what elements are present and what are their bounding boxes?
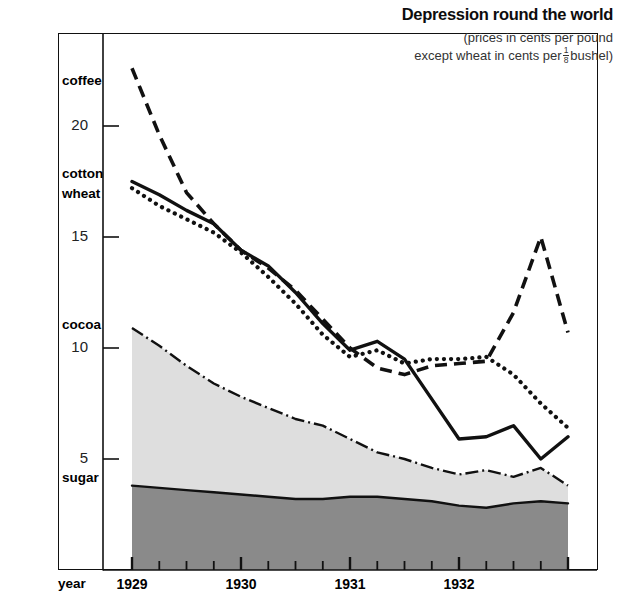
chart-page: Depression round the world (prices in ce… [0,0,623,611]
series-label-cocoa: cocoa [62,317,101,332]
plot-canvas [0,0,623,611]
x-tick-label-1930: 1930 [211,576,271,592]
series-label-wheat: wheat [62,186,100,201]
y-tick-label-5: 5 [48,449,88,466]
plot-contents [132,68,568,570]
series-label-sugar: sugar [62,470,99,485]
year-caption: year [58,576,86,591]
x-tick-label-1931: 1931 [320,576,380,592]
series-label-cotton: cotton [62,166,103,181]
series-line-coffee [132,68,568,374]
y-tick-label-15: 15 [48,227,88,244]
y-tick-label-10: 10 [48,338,88,355]
series-label-coffee: coffee [62,73,102,88]
x-tick-label-1932: 1932 [429,576,489,592]
x-tick-label-1929: 1929 [102,576,162,592]
y-tick-label-20: 20 [48,116,88,133]
